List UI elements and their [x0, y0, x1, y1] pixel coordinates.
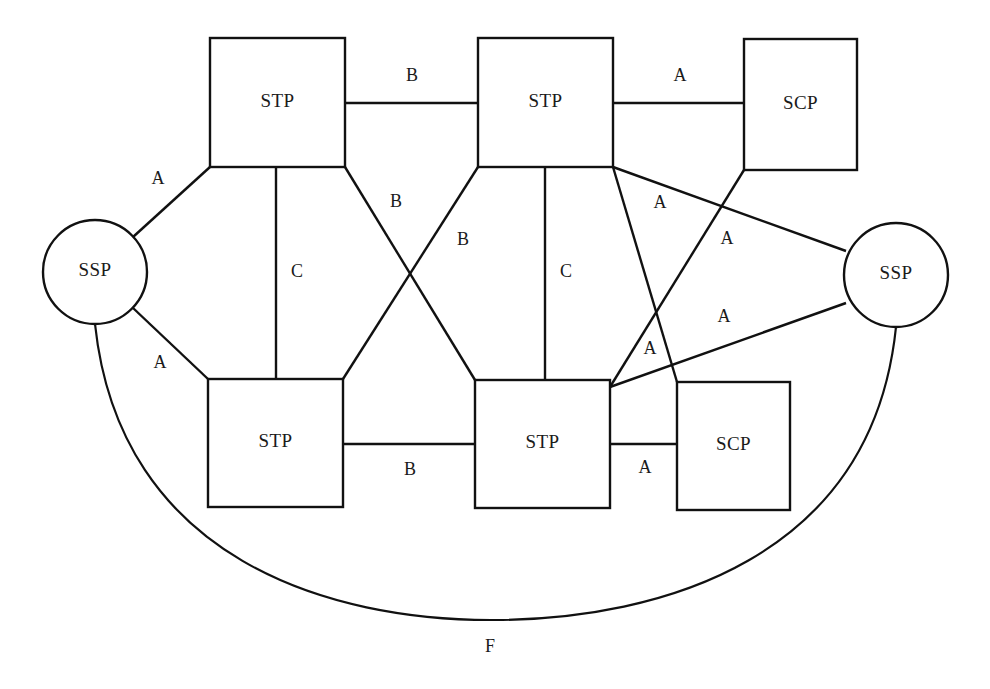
stp-top-left-label: STP: [261, 90, 295, 111]
node-stp-bottom-left[interactable]: STP: [208, 379, 343, 507]
network-topology-canvas: SSP SSP STP STP SCP STP: [0, 0, 990, 689]
node-stp-top-left[interactable]: STP: [210, 38, 345, 167]
stp-bottom-left-label: STP: [259, 430, 293, 451]
node-scp-bottom[interactable]: SCP: [677, 382, 790, 510]
stp-top-right-label: STP: [529, 90, 563, 111]
stp-bottom-right-label: STP: [526, 431, 560, 452]
scp-bottom-label: SCP: [716, 433, 751, 454]
node-stp-top-right[interactable]: STP: [478, 38, 613, 167]
link-label-c-right: C: [560, 261, 572, 281]
link-label-a-lower-left: A: [154, 352, 167, 372]
nodes-group: SSP SSP STP STP SCP STP: [43, 38, 948, 510]
link-ssp-left--stp-tl[interactable]: [133, 167, 210, 237]
link-label-a-scp-top-stp-br: A: [644, 338, 657, 358]
link-lines-group: [95, 103, 896, 620]
link-label-c-left: C: [291, 261, 303, 281]
link-ssp-left--stp-bl[interactable]: [133, 308, 208, 379]
link-label-a-top-right: A: [674, 65, 687, 85]
link-label-a-ssp-right-lower: A: [718, 306, 731, 326]
link-label-b-diag-lower: B: [457, 229, 469, 249]
link-label-b-diag-upper: B: [390, 191, 402, 211]
node-ssp-right[interactable]: SSP: [844, 223, 948, 327]
link-label-a-upper-left: A: [152, 168, 165, 188]
scp-top-label: SCP: [783, 92, 818, 113]
ssp-left-label: SSP: [79, 259, 112, 280]
link-label-b-bottom: B: [404, 459, 416, 479]
link-label-f-arc: F: [485, 636, 495, 656]
ssp-right-label: SSP: [880, 262, 913, 283]
node-scp-top[interactable]: SCP: [744, 39, 857, 170]
ss7-network-diagram: SSP SSP STP STP SCP STP: [0, 0, 990, 689]
node-stp-bottom-right[interactable]: STP: [475, 380, 610, 508]
node-ssp-left[interactable]: SSP: [43, 220, 147, 324]
link-label-a-ssp-right-upper: A: [721, 228, 734, 248]
link-scp-top--stp-br[interactable]: [610, 170, 744, 387]
link-label-a-bottom-scp: A: [639, 457, 652, 477]
link-label-b-top: B: [406, 65, 418, 85]
link-label-a-stp-tr-scp-bottom: A: [654, 192, 667, 212]
